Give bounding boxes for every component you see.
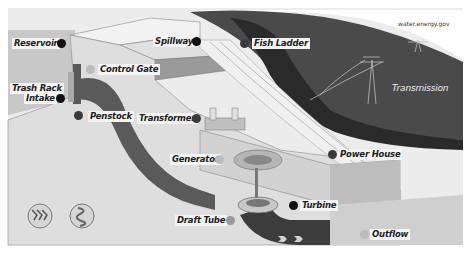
water-flow-icon	[28, 204, 52, 228]
spillway-marker-icon	[192, 37, 201, 46]
source-credit: water.energy.gov	[398, 20, 449, 27]
generator-marker-icon	[215, 155, 224, 164]
label-spillway: Spillway	[153, 36, 195, 47]
label-power-house: Power House	[338, 149, 402, 160]
turbine-marker-icon	[289, 201, 298, 210]
label-transformer: Transformer	[137, 113, 197, 124]
hydropower-diagram: water.energy.gov Reservoir Control Gate …	[0, 0, 470, 253]
fish-ladder-marker-icon	[240, 39, 249, 48]
turbine-swirl-icon	[70, 204, 94, 228]
label-outflow: Outflow	[370, 229, 410, 240]
power-house-marker-icon	[328, 150, 337, 159]
label-control-gate: Control Gate	[98, 64, 160, 75]
label-penstock: Penstock	[88, 111, 134, 122]
label-intake: Intake	[24, 93, 57, 104]
label-reservoir: Reservoir	[12, 38, 60, 49]
outflow-marker-icon	[360, 230, 369, 239]
label-draft-tube: Draft Tube	[175, 215, 227, 226]
label-generator: Generator	[170, 154, 221, 165]
transformer-marker-icon	[192, 114, 201, 123]
draft-tube-marker-icon	[226, 216, 235, 225]
intake-marker-icon	[56, 94, 65, 103]
control-gate-marker-icon	[86, 65, 95, 74]
reservoir-marker-icon	[57, 39, 66, 48]
label-fish-ladder: Fish Ladder	[252, 38, 310, 49]
penstock-marker-icon	[74, 111, 83, 120]
label-transmission: Transmission	[390, 83, 450, 94]
diagram-illustration	[0, 0, 470, 253]
label-turbine: Turbine	[300, 200, 338, 211]
